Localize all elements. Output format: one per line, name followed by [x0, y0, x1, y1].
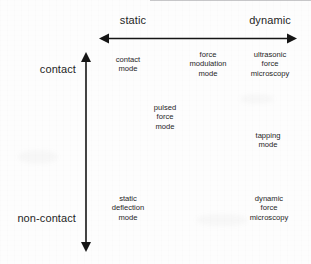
entry-line: force: [235, 59, 305, 68]
entry-line: contact: [99, 55, 157, 64]
axis-label-static: static: [105, 14, 161, 27]
entry-line: force: [136, 112, 194, 121]
entry-line: microscopy: [235, 69, 305, 78]
vertical-axis-arrow: [79, 52, 93, 252]
entry-contact-mode: contact mode: [99, 55, 157, 74]
entry-line: microscopy: [234, 213, 304, 222]
entry-line: mode: [175, 69, 241, 78]
scan-smudge: [240, 94, 274, 104]
entry-line: deflection: [99, 203, 157, 212]
entry-ultrasonic-force-microscopy: ultrasonic force microscopy: [235, 50, 305, 78]
entry-line: mode: [99, 64, 157, 73]
entry-line: force: [175, 50, 241, 59]
axis-label-contact: contact: [0, 63, 76, 76]
entry-line: dynamic: [234, 194, 304, 203]
entry-line: modulation: [175, 59, 241, 68]
entry-line: ultrasonic: [235, 50, 305, 59]
entry-force-modulation-mode: force modulation mode: [175, 50, 241, 78]
entry-dynamic-force-microscopy: dynamic force microscopy: [234, 194, 304, 222]
entry-line: tapping: [238, 131, 298, 140]
scan-edge-line: [150, 0, 311, 1]
entry-line: static: [99, 194, 157, 203]
entry-pulsed-force-mode: pulsed force mode: [136, 103, 194, 131]
horizontal-axis-arrow: [99, 32, 297, 45]
afm-modes-diagram: static dynamic contact non-contact conta…: [0, 0, 311, 264]
scan-smudge: [18, 150, 58, 164]
entry-static-deflection-mode: static deflection mode: [99, 194, 157, 222]
entry-tapping-mode: tapping mode: [238, 131, 298, 150]
entry-line: mode: [238, 140, 298, 149]
entry-line: force: [234, 203, 304, 212]
axis-label-non-contact: non-contact: [0, 212, 76, 225]
entry-line: mode: [99, 213, 157, 222]
entry-line: mode: [136, 122, 194, 131]
entry-line: pulsed: [136, 103, 194, 112]
axis-label-dynamic: dynamic: [239, 14, 301, 27]
